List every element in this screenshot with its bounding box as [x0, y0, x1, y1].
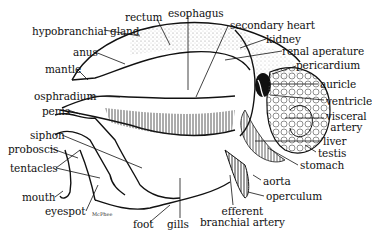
label-tentacles: tentacles — [10, 163, 58, 174]
label-anus: anus — [73, 47, 98, 58]
label-penis: penis — [42, 106, 70, 117]
label-secondary-heart: secondary heart — [230, 20, 315, 31]
label-hypobranchial-gland: hypobranchial gland — [32, 26, 139, 37]
label-gills: gills — [167, 219, 189, 230]
label-auricle: auricle — [320, 79, 356, 90]
label-stomach: stomach — [300, 160, 344, 171]
label-mouth: mouth — [22, 192, 56, 203]
artist-signature: McPhee — [92, 211, 112, 217]
label-eyespot: eyespot — [45, 206, 85, 217]
label-visceral-artery: visceral artery — [326, 111, 367, 133]
label-kidney: kidney — [266, 34, 301, 45]
label-operculum: operculum — [266, 191, 322, 202]
label-osphradium: osphradium — [34, 91, 96, 102]
label-esophagus: esophagus — [168, 8, 224, 19]
label-ventricle: ventricle — [326, 96, 372, 107]
label-renal-aperature: renal aperature — [282, 46, 364, 57]
label-pericardium: pericardium — [296, 60, 360, 71]
label-liver: liver — [323, 136, 346, 147]
label-rectum: rectum — [125, 12, 162, 23]
label-aorta: aorta — [263, 176, 291, 187]
label-foot: foot — [133, 219, 153, 230]
gills-region — [105, 108, 235, 135]
label-mantle: mantle — [45, 64, 81, 75]
label-testis: testis — [318, 148, 346, 159]
label-efferent-branchial-artery: efferent branchial artery — [200, 206, 285, 228]
label-proboscis: proboscis — [8, 144, 58, 155]
label-siphon: siphon — [30, 130, 65, 141]
